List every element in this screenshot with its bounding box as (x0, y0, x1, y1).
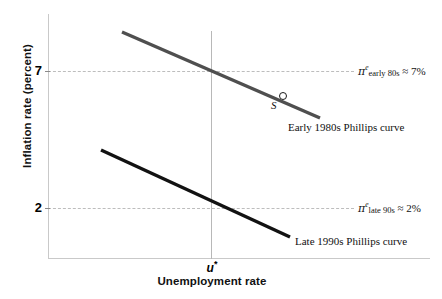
phillips-curves-svg (0, 0, 442, 299)
pi-value-late: ≈ 2% (395, 202, 421, 214)
expected-inflation-late-90s-note: πelate 90s ≈ 2% (358, 200, 421, 215)
early-1980s-curve-label: Early 1980s Phillips curve (288, 121, 404, 133)
pi-subscript-early: early 80s (369, 68, 400, 78)
natural-rate-vertical-line (211, 31, 212, 259)
pi-subscript-late: late 90s (369, 205, 395, 215)
y-axis-title: Inflation rate (percent) (21, 26, 33, 186)
late-1990s-curve-label: Late 1990s Phillips curve (295, 235, 407, 247)
expected-inflation-early-80s-note: πeearly 80s ≈ 7% (358, 63, 426, 78)
reference-line-7-percent (48, 71, 354, 72)
point-s-label: S (271, 99, 277, 111)
x-axis-title: Unemployment rate (112, 275, 312, 287)
point-s-marker (279, 92, 287, 100)
early-1980s-phillips-curve-line (122, 32, 320, 118)
late-1990s-phillips-curve-line (101, 150, 290, 237)
ustar-base: u (207, 261, 214, 275)
reference-line-2-percent (48, 208, 354, 209)
y-tick-mark-7 (45, 71, 50, 72)
natural-rate-tick-label: u* (185, 259, 239, 275)
pi-value-early: ≈ 7% (400, 65, 426, 77)
y-tick-mark-2 (45, 208, 50, 209)
ustar-superscript: * (214, 259, 218, 269)
y-tick-label-2: 2 (22, 200, 42, 215)
y-axis-line (48, 14, 49, 259)
phillips-curve-figure: 7 2 Inflation rate (percent) Unemploymen… (0, 0, 442, 299)
x-axis-line (48, 258, 430, 259)
